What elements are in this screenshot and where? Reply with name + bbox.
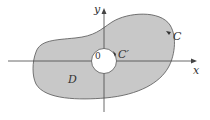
- x-axis-label: x: [193, 64, 200, 77]
- region-d-label: D: [67, 73, 77, 86]
- y-axis-label: y: [93, 3, 101, 16]
- x-axis-arrow-icon: [191, 59, 197, 64]
- curve-c-prime-label: C′: [118, 48, 129, 61]
- region-diagram: y x 0 C C′ D: [0, 0, 210, 120]
- origin-label: 0: [95, 51, 101, 61]
- curve-c-label: C: [173, 30, 182, 43]
- y-axis-arrow-icon: [102, 8, 107, 14]
